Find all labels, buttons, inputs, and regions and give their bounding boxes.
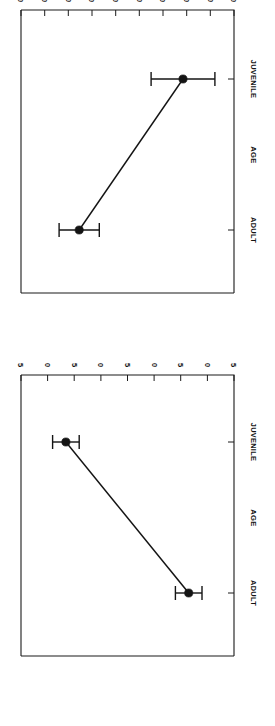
value-tick-labels: 540 530 520 510 500 490 480 470 460 450	[16, 0, 238, 2]
tick-label: 19.0	[150, 363, 159, 367]
category-axis-ticks	[228, 79, 234, 230]
plot-frame	[21, 375, 234, 656]
series-line	[66, 442, 189, 593]
category-axis-ticks	[228, 442, 234, 593]
value-axis-ticks	[21, 375, 234, 381]
series-line	[79, 79, 183, 230]
plot-frame	[21, 10, 234, 293]
tick-label: 17.5	[70, 363, 79, 367]
tick-label: 18.0	[96, 363, 105, 367]
tick-label: 490	[111, 0, 120, 2]
tick-label: 480	[87, 0, 96, 2]
rotated-plot-container: 540 530 520 510 500 490 480 470 460 450 …	[0, 0, 275, 363]
data-point-adult	[185, 589, 193, 597]
tick-label: 530	[206, 0, 215, 2]
category-label-adult: ADULT	[249, 217, 258, 243]
tick-label: 510	[158, 0, 167, 2]
category-label-juvenile: JUVENILE	[249, 423, 258, 462]
data-point-juvenile	[62, 438, 70, 446]
category-label-adult: ADULT	[249, 580, 258, 606]
tick-label: 450	[16, 0, 25, 2]
telencephalon-volume-figure: 540 530 520 510 500 490 480 470 460 450 …	[0, 0, 275, 363]
telencephalon-plot: 540 530 520 510 500 490 480 470 460 450 …	[0, 0, 275, 363]
tick-label: 16.5	[16, 363, 25, 367]
tick-label: 19.5	[176, 363, 185, 367]
tick-label: 18.5	[123, 363, 132, 367]
rotated-plot-container: 20.5 20.0 19.5 19.0 18.5 18.0 17.5 17.0 …	[0, 363, 275, 726]
tick-label: 470	[64, 0, 73, 2]
tick-label: 20.5	[229, 363, 238, 367]
hippocampal-plot: 20.5 20.0 19.5 19.0 18.5 18.0 17.5 17.0 …	[0, 363, 275, 726]
tick-label: 520	[182, 0, 191, 2]
tick-label: 17.0	[43, 363, 52, 367]
hippocampal-formation-volume-figure: 20.5 20.0 19.5 19.0 18.5 18.0 17.5 17.0 …	[0, 363, 275, 726]
data-point-juvenile	[179, 75, 187, 83]
value-axis-ticks	[21, 10, 234, 16]
category-axis-title: AGE	[249, 509, 258, 527]
tick-label: 500	[135, 0, 144, 2]
value-tick-labels: 20.5 20.0 19.5 19.0 18.5 18.0 17.5 17.0 …	[16, 363, 238, 367]
data-point-adult	[75, 226, 83, 234]
figure-page: 540 530 520 510 500 490 480 470 460 450 …	[0, 0, 275, 726]
tick-label: 460	[40, 0, 49, 2]
tick-label: 20.0	[203, 363, 212, 367]
category-axis-title: AGE	[249, 146, 258, 164]
tick-label: 540	[229, 0, 238, 2]
category-label-juvenile: JUVENILE	[249, 60, 258, 99]
